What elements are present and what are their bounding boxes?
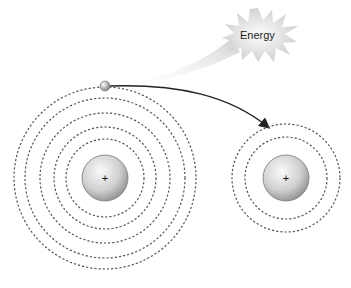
nucleus-plus-icon: + — [283, 172, 289, 184]
nucleus-plus-icon: + — [102, 172, 108, 184]
electron — [100, 81, 110, 91]
energy-label: Energy — [240, 29, 275, 41]
energy-emission-wedge — [110, 38, 240, 88]
atom-energy-diagram: + + Energy — [0, 0, 351, 288]
transition-arrow — [110, 86, 268, 127]
